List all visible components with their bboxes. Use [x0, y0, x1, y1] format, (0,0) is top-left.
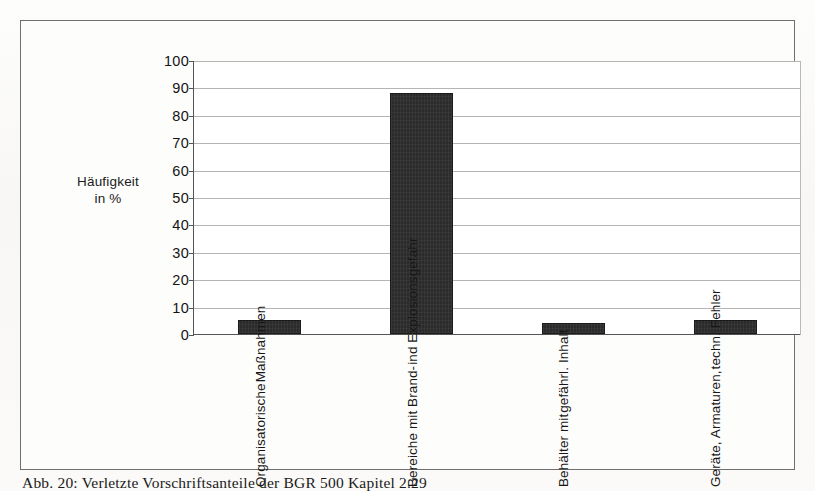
figure-frame: Häufigkeit in % 0102030405060708090100 O… [20, 20, 795, 470]
y-axis-ticks: 0102030405060708090100 [145, 61, 189, 335]
y-tick-label-0: 0 [149, 327, 189, 343]
y-tick-label-40: 40 [149, 217, 189, 233]
y-tick-label-70: 70 [149, 135, 189, 151]
x-axis-label-4-line2: techn. Fehler [708, 289, 725, 369]
gridline-100 [194, 61, 800, 62]
y-tick-label-30: 30 [149, 245, 189, 261]
y-tick-label-90: 90 [149, 80, 189, 96]
gridline-90 [194, 88, 800, 89]
figure-caption: Abb. 20: Verletzte Vorschriftsanteile de… [22, 474, 427, 491]
bar-2 [390, 93, 453, 334]
x-axis-label-3-line1: Behälter mit [556, 414, 573, 487]
gridline-70 [194, 143, 800, 144]
gridline-20 [194, 280, 800, 281]
x-axis-label-3-line2: gefährl. Inhalt [556, 329, 573, 412]
x-axis-label-1-line1: Organisatorische [253, 383, 270, 487]
bar-3 [542, 323, 605, 334]
y-tick-label-60: 60 [149, 163, 189, 179]
gridline-80 [194, 116, 800, 117]
gridline-50 [194, 198, 800, 199]
gridline-30 [194, 253, 800, 254]
y-tick-label-10: 10 [149, 300, 189, 316]
gridline-40 [194, 225, 800, 226]
x-axis-label-2-line1: Bereiche mit Brand- [405, 366, 422, 487]
y-tick-mark-0 [189, 335, 194, 336]
x-axis-label-1-line2: Maßnahmen [253, 306, 270, 383]
y-tick-label-80: 80 [149, 108, 189, 124]
x-axis-label-2-line2: ind Explosionsgefahr [405, 237, 422, 364]
y-tick-label-20: 20 [149, 272, 189, 288]
y-tick-label-50: 50 [149, 190, 189, 206]
gridline-60 [194, 171, 800, 172]
bar-1 [238, 320, 301, 334]
y-tick-label-100: 100 [149, 53, 189, 69]
bar-4 [694, 320, 757, 334]
x-axis-label-4-line1: Geräte, Armaturen, [708, 370, 725, 487]
